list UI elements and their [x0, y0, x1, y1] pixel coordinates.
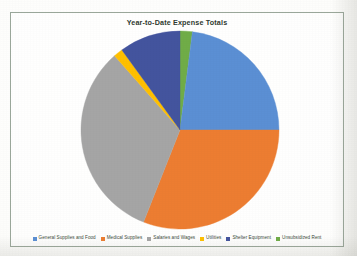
legend-item-label: Unsubsidized Rent — [282, 236, 321, 241]
pie-slice[interactable] — [180, 32, 279, 130]
pie-chart-svg — [11, 13, 345, 248]
legend-swatch-icon — [147, 237, 151, 241]
legend-item-label: Shelter Equipment — [232, 236, 271, 241]
legend-item[interactable]: Unsubsidized Rent — [276, 236, 321, 241]
legend-item-label: Utilities — [206, 236, 221, 241]
pie-chart-plot-area — [11, 13, 345, 248]
pie-slice-group — [81, 31, 279, 229]
legend-swatch-icon — [276, 237, 280, 241]
chart-frame: Year-to-Date Expense Totals General Supp… — [10, 12, 344, 247]
chart-legend: General Supplies and FoodMedical Supplie… — [11, 236, 343, 241]
legend-item[interactable]: General Supplies and Food — [33, 236, 96, 241]
legend-swatch-icon — [200, 237, 204, 241]
legend-item-label: Salaries and Wages — [153, 236, 195, 241]
legend-item[interactable]: Medical Supplies — [101, 236, 143, 241]
legend-swatch-icon — [226, 237, 230, 241]
legend-item[interactable]: Shelter Equipment — [226, 236, 271, 241]
legend-item[interactable]: Utilities — [200, 236, 221, 241]
legend-item[interactable]: Salaries and Wages — [147, 236, 195, 241]
legend-item-label: Medical Supplies — [107, 236, 143, 241]
legend-item-label: General Supplies and Food — [39, 236, 96, 241]
scanned-page: Year-to-Date Expense Totals General Supp… — [0, 0, 357, 256]
legend-swatch-icon — [101, 237, 105, 241]
legend-swatch-icon — [33, 237, 37, 241]
